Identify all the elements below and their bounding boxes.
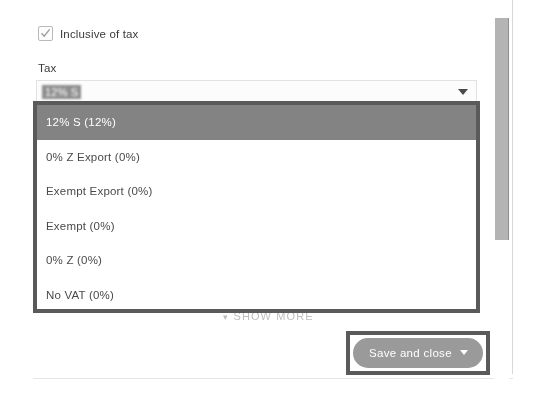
list-item[interactable]: 0% Z Export (0%) (37, 140, 476, 175)
tax-dropdown-panel: 12% S (12%) 0% Z Export (0%) Exempt Expo… (33, 101, 480, 313)
panel-right-edge (512, 0, 513, 374)
list-item[interactable]: Exempt Export (0%) (37, 174, 476, 209)
vertical-scrollbar-thumb[interactable] (495, 18, 509, 240)
form-panel: Inclusive of tax Tax 12% S ▾SHOW MORE 12… (0, 0, 537, 399)
list-item[interactable]: Exempt (0%) (37, 209, 476, 244)
save-and-close-button[interactable]: Save and close (353, 338, 483, 368)
check-icon (40, 28, 51, 39)
save-and-close-label: Save and close (369, 347, 452, 359)
tax-dropdown-list[interactable]: 12% S (12%) 0% Z Export (0%) Exempt Expo… (37, 105, 476, 309)
inclusive-of-tax-checkbox-row[interactable]: Inclusive of tax (38, 26, 138, 41)
inclusive-of-tax-checkbox[interactable] (38, 26, 53, 41)
inclusive-of-tax-label: Inclusive of tax (60, 28, 138, 40)
list-item[interactable]: 0% Z (0%) (37, 243, 476, 278)
chevron-down-icon[interactable] (458, 89, 468, 95)
list-item[interactable]: No VAT (0%) (37, 278, 476, 310)
tax-combobox-value: 12% S (42, 85, 81, 99)
list-item[interactable]: 12% S (12%) (37, 105, 476, 140)
chevron-down-icon[interactable] (460, 350, 468, 355)
tax-field-label: Tax (38, 62, 57, 74)
footer-divider (33, 378, 513, 379)
chevron-down-icon: ▾ (223, 312, 229, 322)
